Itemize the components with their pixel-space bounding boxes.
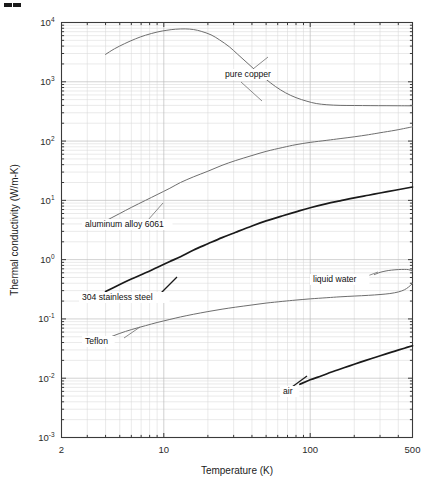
y-tick-label: 104 [40, 16, 55, 28]
series-label-teflon: Teflon [85, 336, 108, 346]
x-tick-label: 10 [159, 444, 170, 455]
data-curves [106, 29, 413, 384]
x-tick-label: 500 [405, 444, 421, 455]
leader-line [253, 57, 268, 69]
y-tick-label: 10-1 [38, 312, 55, 324]
y-tick-label: 10-3 [38, 431, 55, 443]
y-tick-label: 10-2 [38, 372, 55, 384]
corner-mark-b [13, 3, 21, 7]
y-axis-title: Thermal conductivity (W/m-K) [9, 164, 20, 296]
leader-line [124, 327, 140, 338]
x-tick-label: 2 [59, 444, 64, 455]
x-axis-title: Temperature (K) [201, 465, 273, 476]
series-labels: pure copperaluminum alloy 6061304 stainl… [79, 57, 378, 397]
series-label-air: air [283, 386, 293, 396]
y-tick-label: 102 [40, 135, 55, 147]
leader-line [148, 203, 163, 220]
x-tick-label: 100 [302, 444, 318, 455]
y-tick-label: 100 [40, 253, 55, 265]
series-label-304-stainless-steel: 304 stainless steel [82, 292, 153, 302]
leader-line [241, 82, 262, 101]
corner-mark-a [4, 3, 12, 7]
y-tick-label: 101 [40, 194, 55, 206]
corner-mark [4, 3, 21, 7]
series-label-liquid-water: liquid water [313, 274, 357, 284]
y-tick-label: 103 [40, 75, 55, 87]
series-label-pure-copper: pure copper [225, 69, 271, 79]
series-label-aluminum-alloy-6061: aluminum alloy 6061 [85, 219, 164, 229]
thermal-conductivity-chart: pure copperaluminum alloy 6061304 stainl… [0, 0, 435, 494]
